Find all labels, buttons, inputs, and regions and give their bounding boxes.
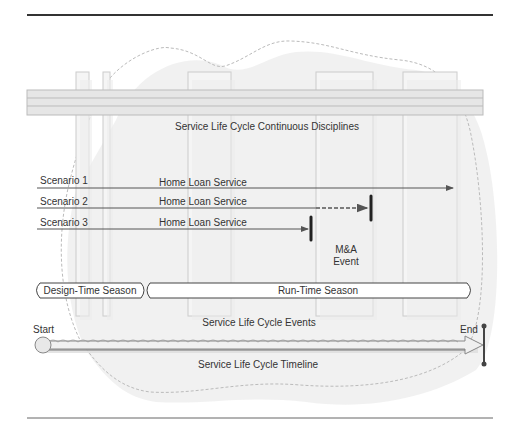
scenario-1-label: Scenario 1 — [40, 175, 88, 186]
run-time-season: Run-Time Season — [147, 283, 471, 298]
scenario-2-label: Scenario 2 — [40, 196, 88, 207]
scenario-3-service: Home Loan Service — [159, 217, 247, 228]
ma-event-label-line1: M&A — [335, 244, 357, 255]
disciplines-label: Service Life Cycle Continuous Discipline… — [175, 121, 359, 132]
design-time-label: Design-Time Season — [43, 285, 136, 296]
timeline-start-node — [35, 337, 51, 353]
service-life-cycle-diagram: Service Life Cycle Continuous Discipline… — [0, 0, 513, 434]
scenario-2-service: Home Loan Service — [159, 196, 247, 207]
ma-event-label-line2: Event — [333, 256, 359, 267]
timeline-label: Service Life Cycle Timeline — [198, 359, 318, 370]
run-time-label: Run-Time Season — [278, 285, 358, 296]
scenario-3-label: Scenario 3 — [40, 217, 88, 228]
timeline-start-label: Start — [33, 324, 54, 335]
design-time-season: Design-Time Season — [37, 283, 145, 298]
events-label: Service Life Cycle Events — [202, 317, 315, 328]
scenario-1-service: Home Loan Service — [159, 177, 247, 188]
timeline-end-label: End — [460, 324, 478, 335]
disciplines-band — [27, 90, 483, 115]
